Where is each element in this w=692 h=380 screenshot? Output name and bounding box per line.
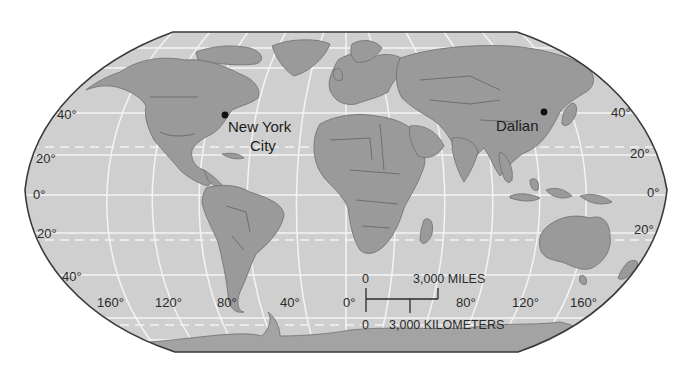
lat-label-right-0: 0°: [647, 186, 659, 199]
scale-km-zero: 0: [362, 319, 369, 332]
lat-label-left-40s: 40°: [62, 270, 82, 283]
lon-label-80e: 80°: [456, 296, 476, 309]
lat-label-right-20n: 20°: [630, 147, 650, 160]
lat-label-left-20n: 20°: [36, 152, 56, 165]
lon-label-120w: 120°: [155, 296, 182, 309]
city-label-dalian: Dalian: [496, 118, 539, 133]
lon-label-40w: 40°: [280, 296, 300, 309]
lat-label-left-0: 0°: [33, 188, 45, 201]
lat-label-right-20s: 20°: [634, 223, 654, 236]
lat-label-right-40n: 40°: [611, 106, 631, 119]
lat-label-left-40n: 40°: [57, 108, 77, 121]
scale-miles-label: 3,000 MILES: [413, 273, 485, 286]
city-label-city: City: [250, 138, 276, 153]
scale-km-label: 3,000 KILOMETERS: [389, 319, 504, 332]
lon-label-160w: 160°: [97, 296, 124, 309]
dalian-marker: [541, 109, 548, 116]
scale-miles-zero: 0: [362, 273, 369, 286]
lon-label-120e: 120°: [512, 296, 539, 309]
city-label-new-york: New York: [228, 119, 291, 134]
lon-label-160e: 160°: [570, 296, 597, 309]
lat-label-left-20s: 20°: [37, 227, 57, 240]
lon-label-0: 0°: [343, 296, 355, 309]
lon-label-80w: 80°: [217, 296, 237, 309]
world-map: [0, 0, 692, 380]
